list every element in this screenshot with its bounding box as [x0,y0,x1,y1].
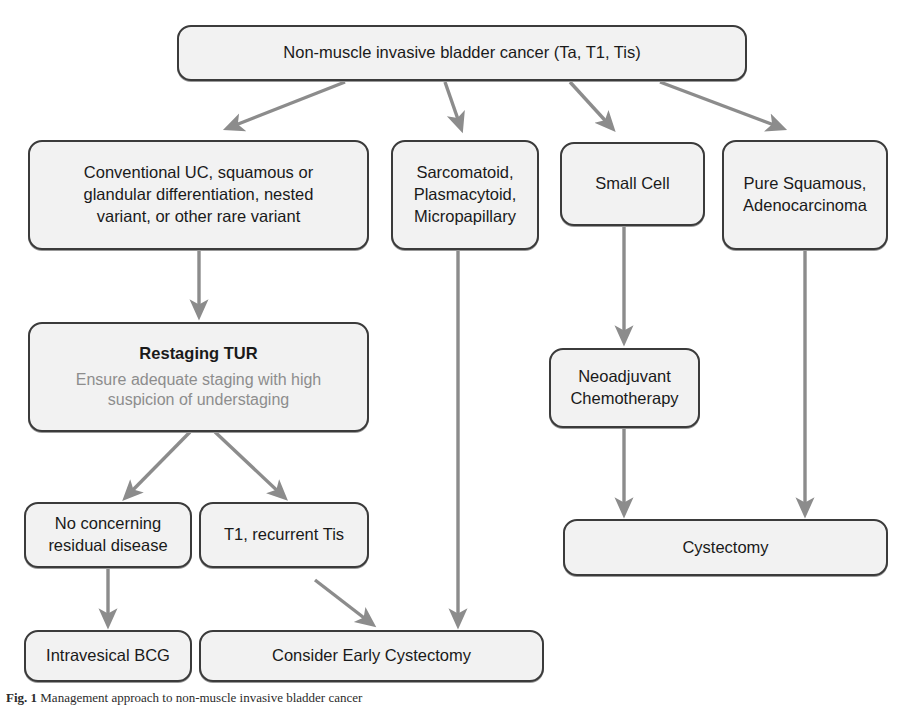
node-intravesical-bcg[interactable]: Intravesical BCG [24,630,192,682]
edge-root-to-pure-squamous [660,82,782,128]
figure-caption: Fig. 1 Management approach to non-muscle… [6,690,886,706]
node-restaging-tur[interactable]: Restaging TUR Ensure adequate staging wi… [28,322,369,432]
edge-root-to-sarcomatoid [445,82,461,128]
node-no-residual-disease[interactable]: No concerning residual disease [24,502,192,568]
node-cystectomy-label: Cystectomy [682,537,768,559]
node-t1-recurrent-tis[interactable]: T1, recurrent Tis [199,502,369,568]
node-sarcomatoid-line-2: Plasmacytoid, [414,184,517,206]
node-small-cell[interactable]: Small Cell [560,142,705,226]
node-cystectomy[interactable]: Cystectomy [563,519,888,576]
node-root-label: Non-muscle invasive bladder cancer (Ta, … [283,42,640,64]
node-neoadjuvant-line-1: Neoadjuvant [578,366,671,388]
node-intravesical-bcg-label: Intravesical BCG [46,645,170,667]
node-pure-squamous-line-1: Pure Squamous, [744,173,867,195]
node-restaging-tur-sub-line-2: suspicion of understaging [108,390,289,411]
flowchart-canvas: Non-muscle invasive bladder cancer (Ta, … [0,0,907,709]
node-restaging-tur-title: Restaging TUR [139,343,257,365]
edge-t1-to-consider-cystectomy [315,580,372,624]
node-sarcomatoid[interactable]: Sarcomatoid, Plasmacytoid, Micropapillar… [391,140,539,250]
node-t1-recurrent-tis-label: T1, recurrent Tis [224,524,344,546]
node-neoadjuvant-chemotherapy[interactable]: Neoadjuvant Chemotherapy [549,348,700,428]
node-sarcomatoid-line-3: Micropapillary [414,206,516,228]
node-no-residual-disease-line-2: residual disease [48,535,167,557]
edge-root-to-small-cell [570,82,612,128]
node-sarcomatoid-line-1: Sarcomatoid, [416,162,513,184]
node-consider-early-cystectomy[interactable]: Consider Early Cystectomy [199,630,544,682]
node-conventional-line-1: Conventional UC, squamous or [84,162,313,184]
figure-caption-text: Management approach to non-muscle invasi… [40,690,362,705]
edge-root-to-conventional [228,82,345,128]
node-restaging-tur-sub-line-1: Ensure adequate staging with high [76,370,322,391]
node-neoadjuvant-line-2: Chemotherapy [570,388,678,410]
node-pure-squamous-line-2: Adenocarcinoma [743,195,867,217]
edge-restaging-to-t1 [215,432,284,497]
edge-restaging-to-no-residual [126,432,190,497]
node-no-residual-disease-line-1: No concerning [55,513,161,535]
node-conventional[interactable]: Conventional UC, squamous or glandular d… [28,140,369,250]
node-conventional-line-3: variant, or other rare variant [97,206,301,228]
node-consider-early-cystectomy-label: Consider Early Cystectomy [272,645,471,667]
node-root[interactable]: Non-muscle invasive bladder cancer (Ta, … [177,25,747,81]
node-small-cell-label: Small Cell [595,173,669,195]
node-conventional-line-2: glandular differentiation, nested [84,184,314,206]
node-pure-squamous[interactable]: Pure Squamous, Adenocarcinoma [722,140,888,250]
figure-caption-label: Fig. 1 [6,690,37,705]
